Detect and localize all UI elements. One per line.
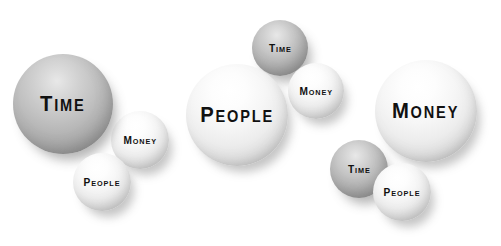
sphere-time-time: TIME <box>13 54 113 154</box>
sphere-label: PEOPLE <box>200 104 274 126</box>
sphere-label: TIME <box>348 164 371 175</box>
sphere-label: MONEY <box>299 86 333 97</box>
sphere-label-initial: P <box>200 102 215 127</box>
sphere-money-money: MONEY <box>375 60 477 162</box>
sphere-people-time: PEOPLE <box>73 153 131 211</box>
sphere-label-rest: IME <box>276 45 292 54</box>
sphere-money-people: MONEY <box>288 63 344 119</box>
sphere-label: TIME <box>269 43 292 54</box>
sphere-label-rest: ONEY <box>411 104 460 121</box>
sphere-label-initial: M <box>123 134 132 146</box>
sphere-label-initial: T <box>269 42 276 54</box>
sphere-label-rest: IME <box>54 97 85 114</box>
sphere-label: MONEY <box>123 135 157 146</box>
sphere-label: PEOPLE <box>384 187 421 198</box>
sphere-label-rest: ONEY <box>309 88 333 97</box>
sphere-label: TIME <box>40 93 86 115</box>
sphere-label-rest: EOPLE <box>91 179 120 188</box>
sphere-people-people: PEOPLE <box>186 64 288 166</box>
sphere-label-rest: IME <box>355 166 371 175</box>
sphere-label: MONEY <box>392 100 459 122</box>
sphere-label-initial: M <box>299 85 308 97</box>
sphere-label-rest: EOPLE <box>391 189 420 198</box>
sphere-label-initial: M <box>392 98 411 123</box>
sphere-label-initial: T <box>348 163 355 175</box>
sphere-people-money: PEOPLE <box>373 163 431 221</box>
sphere-label-initial: T <box>40 91 54 116</box>
sphere-label-rest: EOPLE <box>215 108 273 125</box>
sphere-label-rest: ONEY <box>133 137 157 146</box>
diagram-canvas: TIMEMONEYPEOPLETIMEMONEYPEOPLEMONEYTIMEP… <box>0 0 501 246</box>
sphere-label: PEOPLE <box>84 177 121 188</box>
